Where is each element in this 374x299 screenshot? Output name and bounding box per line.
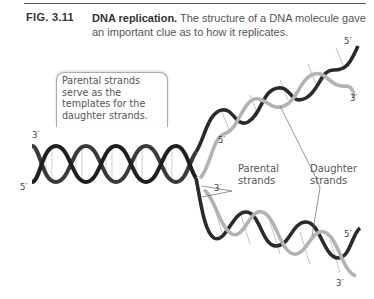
label-upper-5prime: 5′ — [344, 36, 351, 46]
label-left-5prime: 5′ — [20, 182, 27, 192]
label-upper-inner-5prime: 5′ — [218, 135, 225, 145]
parental-helix — [32, 146, 196, 182]
daughter-strands-label: Daughter strands — [310, 163, 357, 186]
label-lower-inner-3prime: 3′ — [214, 183, 221, 193]
label-left-3prime: 3′ — [32, 130, 39, 140]
upper-daughter-helix — [196, 46, 358, 178]
dna-replication-diagram — [0, 0, 374, 299]
label-lower-3prime: 3′ — [336, 278, 343, 288]
label-lower-5prime: 5′ — [344, 229, 351, 239]
parental-strands-label: Parental strands — [238, 163, 279, 186]
label-upper-3prime: 3′ — [350, 93, 357, 103]
